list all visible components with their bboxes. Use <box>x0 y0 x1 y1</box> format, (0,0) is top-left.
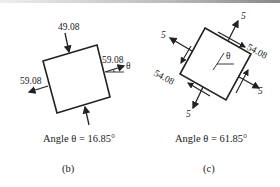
theta-symbol-b: θ <box>126 61 131 71</box>
label-normal-top-c: 5 <box>241 11 246 21</box>
angle-caption-b: Angle θ = 16.85° <box>43 133 115 144</box>
panel-label-c: (c) <box>203 163 215 174</box>
label-normal-left-c: 5 <box>161 30 166 40</box>
panel-label-b: (b) <box>62 163 74 174</box>
label-right-stress-b: 59.08 <box>102 55 123 65</box>
diagram-canvas <box>0 0 280 187</box>
label-normal-right-c: 5 <box>258 86 263 96</box>
label-normal-bottom-c: 5 <box>186 109 191 119</box>
angle-caption-c: Angle θ = 61.85° <box>175 133 247 144</box>
stress-element-c <box>170 21 259 108</box>
label-left-stress-b: 59.08 <box>20 76 41 86</box>
label-top-stress-b: 49.08 <box>58 22 79 32</box>
theta-symbol-c: θ <box>226 51 231 61</box>
stress-element-b <box>29 33 124 125</box>
